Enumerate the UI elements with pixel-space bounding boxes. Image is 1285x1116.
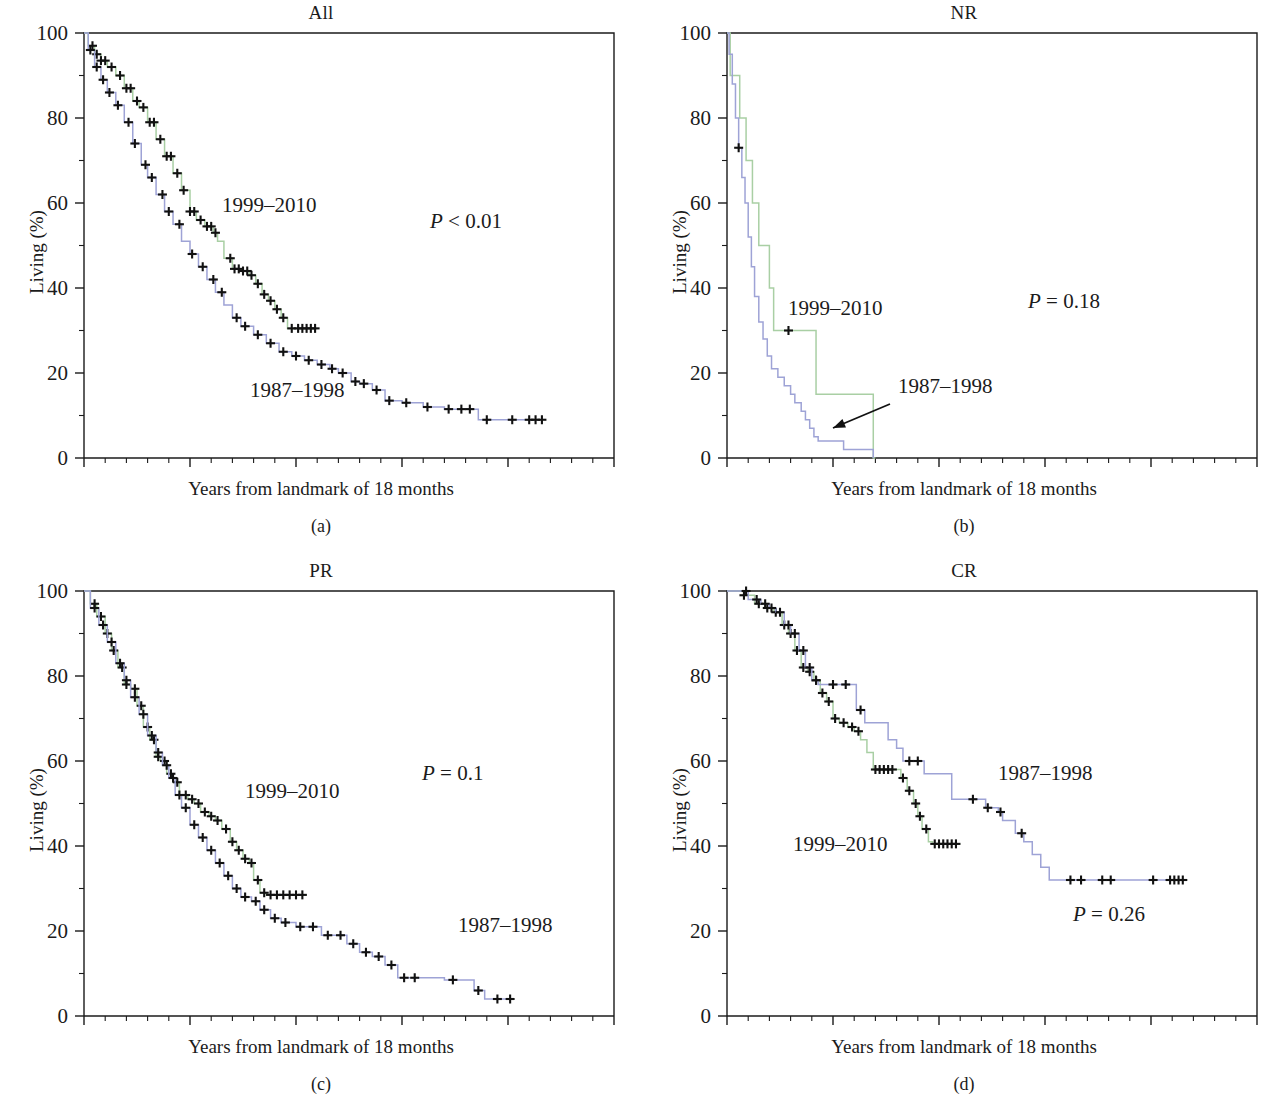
censor-mark [784,621,793,630]
censor-mark [402,398,411,407]
censor-mark [107,63,116,72]
censor-mark [292,352,301,361]
series-label-late-b: 1999–2010 [788,296,883,320]
censor-mark [784,326,793,335]
censor-mark [209,275,218,284]
censor-mark [308,922,317,931]
censor-mark [175,791,184,800]
censor-mark [190,207,199,216]
pvalue-annotation-a: P < 0.01 [429,209,502,233]
censor-mark [400,973,409,982]
censor-mark [508,415,517,424]
censor-mark [996,808,1005,817]
censor-mark [92,63,101,72]
censor-mark [888,765,897,774]
censor-mark [137,701,146,710]
censor-mark [105,88,114,97]
y-tick-label: 100 [37,21,69,45]
censor-mark [200,808,209,817]
y-tick-label: 20 [47,919,68,943]
censor-mark [194,799,203,808]
censor-mark [99,75,108,84]
survival-curve-late [84,33,317,328]
censor-mark [898,774,907,783]
censor-mark [349,939,358,948]
censor-mark [351,377,360,386]
censor-mark [537,415,546,424]
censor-mark [226,254,235,263]
censor-mark [839,718,848,727]
y-tick-label: 80 [47,106,68,130]
pvalue-annotation-d: P = 0.26 [1072,902,1145,926]
x-axis-label-c: Years from landmark of 18 months [0,1036,642,1058]
censor-mark [253,279,262,288]
censor-mark [253,876,262,885]
censor-mark [272,305,281,314]
censor-mark [188,795,197,804]
censor-mark [824,697,833,706]
censor-mark [328,364,337,373]
censor-mark [198,262,207,271]
survival-curve-late [727,591,960,844]
y-tick-label: 0 [58,446,69,470]
censor-mark [181,803,190,812]
censor-mark [1098,876,1107,885]
censor-mark [311,324,320,333]
censor-mark [266,339,275,348]
censor-mark [215,859,224,868]
panel-caption-d: (d) [643,1074,1285,1095]
panel-b: NRYears from landmark of 18 monthsLiving… [643,0,1285,558]
x-axis-label-a: Years from landmark of 18 months [0,478,642,500]
y-tick-label: 100 [680,21,712,45]
censor-mark [482,415,491,424]
censor-mark [336,931,345,940]
censor-mark [222,825,231,834]
survival-curve-late [84,591,307,895]
censor-mark [372,386,381,395]
censor-mark [247,271,256,280]
censor-mark [224,871,233,880]
censor-mark [1106,876,1115,885]
censor-mark [124,118,133,127]
censor-mark [805,663,814,672]
panel-caption-c: (c) [0,1074,642,1095]
x-axis-label-b: Years from landmark of 18 months [643,478,1285,500]
censor-mark [905,757,914,766]
panel-a: AllYears from landmark of 18 monthsLivin… [0,0,642,558]
censor-mark [911,799,920,808]
censor-mark [107,638,116,647]
censor-mark [338,369,347,378]
censor-mark [423,403,432,412]
censor-mark [147,173,156,182]
censor-mark [905,786,914,795]
censor-mark [270,914,279,923]
censor-mark [304,356,313,365]
censor-mark [951,839,960,848]
series-label-early-b: 1987–1998 [898,374,993,398]
censor-mark [841,680,850,689]
plot-area-d: 05101520250204060801001999–20101987–1998… [643,558,1285,1028]
censor-mark [1017,829,1026,838]
censor-mark [173,169,182,178]
axes-frame [84,33,614,458]
censor-mark [247,859,256,868]
censor-mark [164,207,173,216]
censor-mark [243,267,252,276]
censor-mark [90,604,99,613]
y-tick-label: 60 [690,191,711,215]
censor-mark [188,250,197,259]
censor-mark [465,405,474,414]
censor-mark [96,612,105,621]
axes-frame [727,591,1257,1016]
censor-mark [922,825,931,834]
censor-mark [139,710,148,719]
censor-mark [260,290,269,299]
panel-c: PRYears from landmark of 18 monthsLiving… [0,558,642,1116]
censor-mark [298,890,307,899]
y-tick-label: 80 [690,664,711,688]
censor-mark [1178,876,1187,885]
censor-mark [113,101,122,110]
series-label-late-c: 1999–2010 [245,779,340,803]
censor-mark [154,748,163,757]
censor-mark [175,220,184,229]
